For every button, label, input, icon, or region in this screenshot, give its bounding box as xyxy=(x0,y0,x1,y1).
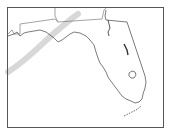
florida-map xyxy=(0,0,172,132)
